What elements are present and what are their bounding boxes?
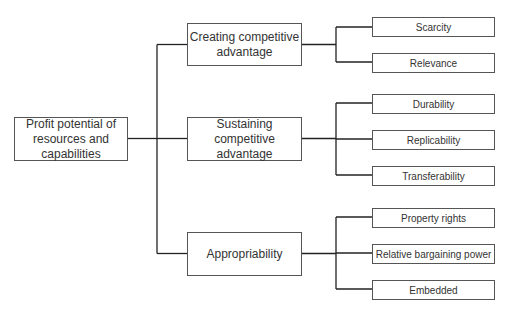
leaf-relevance: Relevance [372,53,495,73]
node-sustaining-competitive-advantage: Sustaining competitive advantage [187,117,302,161]
root-line-3: capabilities [26,147,116,162]
node-appropriability: Appropriability [187,232,302,276]
leaf-label: Embedded [409,283,457,298]
leaf-scarcity: Scarcity [372,17,495,37]
node-label-line: competitive [214,132,275,147]
node-label-line: advantage [214,147,275,162]
leaf-label: Relative bargaining power [376,247,492,262]
node-label-line: advantage [190,45,299,60]
leaf-label: Transferability [402,169,464,184]
leaf-label: Relevance [410,56,457,71]
node-creating-competitive-advantage: Creating competitive advantage [187,23,302,66]
leaf-transferability: Transferability [372,166,495,186]
node-label-line: Creating competitive [190,30,299,45]
leaf-label: Scarcity [416,20,452,35]
leaf-label: Replicability [407,133,460,148]
leaf-embedded: Embedded [372,280,495,300]
root-node: Profit potential of resources and capabi… [14,117,128,161]
root-line-1: Profit potential of [26,117,116,132]
leaf-durability: Durability [372,94,495,114]
leaf-label: Durability [413,97,455,112]
root-line-2: resources and [26,132,116,147]
leaf-label: Property rights [401,211,466,226]
leaf-relative-bargaining-power: Relative bargaining power [372,244,495,264]
leaf-replicability: Replicability [372,130,495,150]
node-label-line: Sustaining [214,117,275,132]
node-label: Appropriability [206,247,282,262]
leaf-property-rights: Property rights [372,208,495,228]
